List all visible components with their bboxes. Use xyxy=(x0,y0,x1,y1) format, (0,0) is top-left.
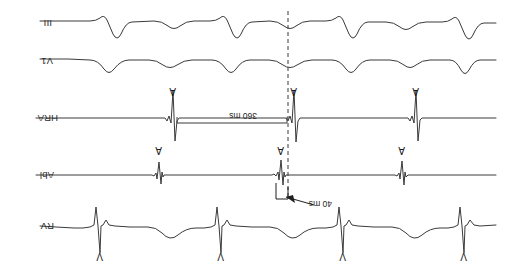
annotation-40ms: 40 ms xyxy=(309,199,332,209)
channel-label-rv: RV xyxy=(41,221,54,232)
beat-marker-v-2: V xyxy=(339,251,346,261)
beat-marker-a-hra-3: A xyxy=(169,86,176,96)
beat-marker-a-hra-1: A xyxy=(412,86,419,96)
trace-abl xyxy=(36,160,496,185)
channel-label-hra: HRA xyxy=(37,113,58,124)
channel-label-v1: V1 xyxy=(41,56,53,67)
beat-marker-v-1: V xyxy=(460,251,467,261)
beat-marker-a-abl-2: A xyxy=(277,145,284,155)
annotation-360ms: 360 ms xyxy=(229,111,257,121)
beat-marker-a-abl-1: A xyxy=(398,145,405,155)
channel-label-abl: Abl xyxy=(40,170,54,181)
rotated-recording-stage: RV Abl HRA V1 III 40 ms 360 ms V V V V A… xyxy=(0,0,526,273)
ecg-figure: RV Abl HRA V1 III 40 ms 360 ms V V V V A… xyxy=(0,0,526,273)
beat-marker-a-hra-2: A xyxy=(290,86,297,96)
channel-label-iii: III xyxy=(43,18,52,29)
trace-iii xyxy=(40,16,496,39)
trace-rv xyxy=(40,207,496,253)
beat-marker-a-abl-3: A xyxy=(155,145,162,155)
beat-marker-v-4: V xyxy=(96,251,103,261)
beat-marker-v-3: V xyxy=(217,251,224,261)
waveform-canvas xyxy=(0,0,526,273)
trace-hra xyxy=(36,90,496,142)
trace-v1 xyxy=(40,59,496,74)
